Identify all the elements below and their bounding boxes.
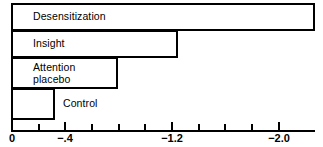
bar-row: Insight <box>11 30 323 58</box>
axis-tick <box>171 122 173 131</box>
axis-tick <box>144 124 146 131</box>
bar-label-control: Control <box>63 98 98 110</box>
bar-chart: Desensitization Insight Attention placeb… <box>0 0 323 147</box>
axis-tick <box>11 122 13 131</box>
axis-tick <box>224 124 226 131</box>
axis-line <box>11 130 315 132</box>
axis-tick <box>251 124 253 131</box>
plot-area: Desensitization Insight Attention placeb… <box>0 0 323 122</box>
bar-label-desensitization: Desensitization <box>33 11 106 23</box>
bar-row: Attention placebo <box>11 57 323 89</box>
axis-tick-label: 0 <box>9 132 15 145</box>
axis-tick-label: −1.2 <box>161 132 183 145</box>
axis-tick-label: −2.0 <box>268 132 290 145</box>
bar-label-insight: Insight <box>33 38 65 50</box>
bar-label-attention-placebo: Attention placebo <box>33 62 75 85</box>
axis-tick <box>198 124 200 131</box>
bar-row: Control <box>11 88 323 120</box>
axis-tick <box>278 122 280 131</box>
axis-tick <box>38 124 40 131</box>
axis-tick <box>64 122 66 131</box>
axis-tick <box>118 124 120 131</box>
bar-control[interactable] <box>11 88 55 120</box>
axis-tick <box>91 124 93 131</box>
bar-row: Desensitization <box>11 3 323 31</box>
axis-tick-label: −.4 <box>57 132 73 145</box>
